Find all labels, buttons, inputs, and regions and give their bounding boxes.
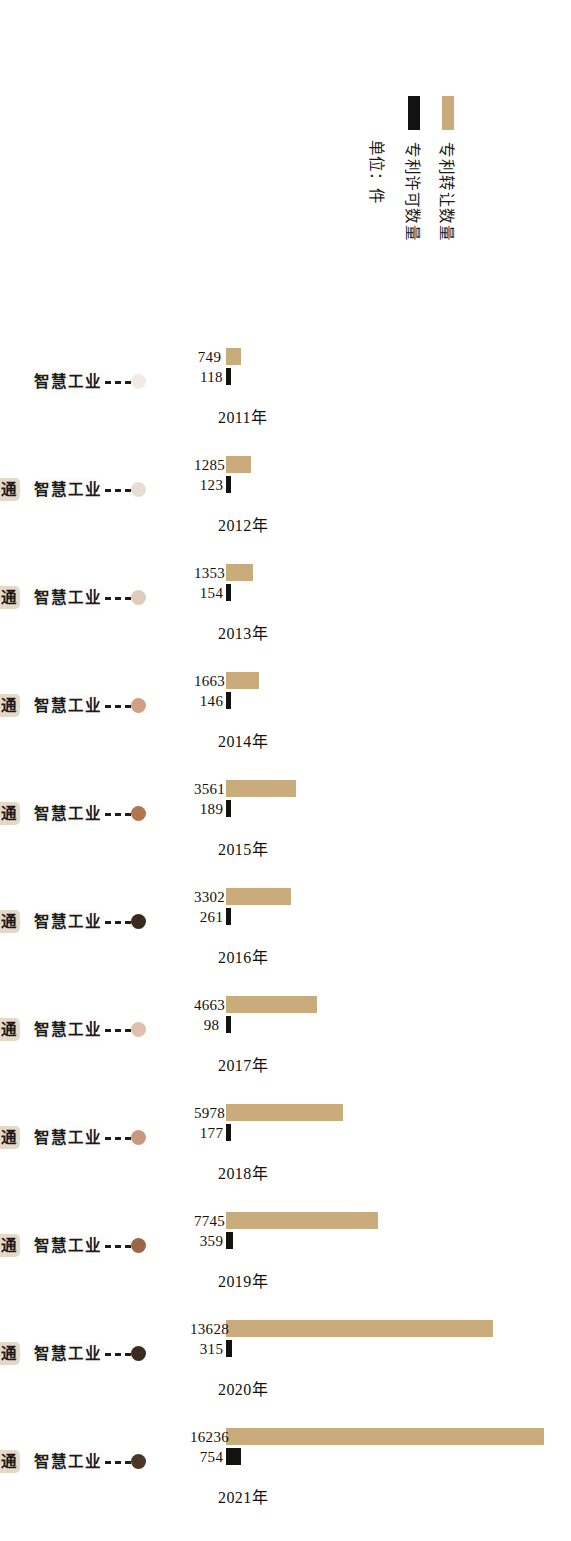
bar-group: 749118 [226, 348, 571, 452]
bar-value-label: 5978 [194, 1104, 225, 1121]
bar-group: 466398 [226, 996, 571, 1100]
category-tag[interactable]: 智慧交通 [0, 1450, 20, 1473]
dashed-connector [105, 921, 131, 924]
bar-license[interactable]: 189 [226, 800, 231, 817]
year-column: 77453592019年智慧工业智慧交通智慧城市智慧医疗智慧金融智慧工业智慧农业 [0, 1194, 571, 1298]
category-tag-label: 智慧工业 [34, 914, 102, 930]
bar-license[interactable]: 98 [226, 1016, 231, 1033]
category-tag[interactable]: 智慧工业 [32, 910, 104, 933]
bar-value-label: 1353 [194, 564, 225, 581]
year-column: 13531542013年智慧工业智慧交通 [0, 546, 571, 650]
category-tag[interactable]: 智慧工业 [32, 1234, 104, 1257]
category-tag[interactable]: 智慧交通 [0, 1234, 20, 1257]
bar-group: 3302261 [226, 888, 571, 992]
category-tag-label: 智慧交通 [0, 698, 18, 714]
bar-transfer[interactable]: 4663 [226, 996, 317, 1013]
category-tag-label: 智慧工业 [34, 590, 102, 606]
category-tag[interactable]: 智慧交通 [0, 1342, 20, 1365]
bar-value-label: 189 [200, 800, 223, 817]
bar-transfer[interactable]: 5978 [226, 1104, 343, 1121]
bar-transfer[interactable]: 1663 [226, 672, 259, 689]
bar-license[interactable]: 359 [226, 1232, 233, 1249]
bar-transfer[interactable]: 3302 [226, 888, 291, 905]
bar-transfer[interactable]: 749 [226, 348, 241, 365]
category-tag-label: 智慧交通 [0, 914, 18, 930]
category-tag[interactable]: 智慧交通 [0, 586, 20, 609]
timeline-dot [131, 806, 146, 821]
legend-item-transfer: 专利转让数量 [437, 96, 459, 306]
bar-group: 16236754 [226, 1428, 571, 1532]
category-tag[interactable]: 智慧交通 [0, 694, 20, 717]
year-column: 7491182011年智慧工业 [0, 330, 571, 434]
category-tag-label: 智慧工业 [34, 698, 102, 714]
bar-transfer[interactable]: 7745 [226, 1212, 378, 1229]
bar-license[interactable]: 315 [226, 1340, 232, 1357]
category-tag-label: 智慧交通 [0, 1454, 18, 1470]
bar-transfer[interactable]: 16236 [226, 1428, 544, 1445]
legend-swatch-transfer [442, 96, 454, 130]
category-tag-label: 智慧工业 [34, 482, 102, 498]
year-column: 35611892015年智慧工业智慧交通智慧城市智慧医疗 [0, 762, 571, 866]
legend-item-license: 专利许可数量 [403, 96, 425, 306]
bar-value-label: 16236 [190, 1428, 229, 1445]
chart-canvas: 专利转让数量 专利许可数量 单位：件 7491182011年智慧工业128512… [0, 0, 571, 1541]
bar-value-label: 315 [200, 1340, 223, 1357]
bar-license[interactable]: 261 [226, 908, 231, 925]
bar-license[interactable]: 754 [226, 1448, 241, 1465]
bar-group: 1353154 [226, 564, 571, 668]
category-tag[interactable]: 智慧交通 [0, 802, 20, 825]
category-tag[interactable]: 智慧工业 [32, 1342, 104, 1365]
category-tag[interactable]: 智慧工业 [32, 1126, 104, 1149]
category-tag[interactable]: 智慧工业 [32, 802, 104, 825]
timeline-dot [131, 482, 146, 497]
bar-transfer[interactable]: 1353 [226, 564, 253, 581]
year-axis-label: 2017年 [218, 1052, 268, 1076]
year-axis-label: 2013年 [218, 620, 268, 644]
bar-value-label: 98 [204, 1016, 220, 1033]
bar-value-label: 754 [200, 1448, 223, 1465]
dashed-connector [105, 1245, 131, 1248]
bar-license[interactable]: 177 [226, 1124, 231, 1141]
legend-swatch-license [408, 96, 420, 130]
year-column: 59781772018年智慧工业智慧交通智慧城市智慧医疗智慧金融智慧工业 [0, 1086, 571, 1190]
bar-value-label: 1663 [194, 672, 225, 689]
category-tag[interactable]: 智慧交通 [0, 1018, 20, 1041]
year-column: 16631462014年智慧工业智慧交通智慧城市 [0, 654, 571, 758]
bar-license[interactable]: 123 [226, 476, 231, 493]
dashed-connector [105, 381, 131, 384]
category-tag[interactable]: 智慧工业 [32, 1018, 104, 1041]
dashed-connector [105, 1137, 131, 1140]
timeline-dot [131, 374, 146, 389]
rotated-figure-wrapper: 专利转让数量 专利许可数量 单位：件 7491182011年智慧工业128512… [0, 0, 571, 1541]
category-tag[interactable]: 智慧工业 [32, 370, 104, 393]
year-column: 136283152020年智慧工业智慧交通智慧城市智慧医疗智慧金融智慧工业智慧农… [0, 1302, 571, 1406]
category-tag[interactable]: 智慧工业 [32, 1450, 104, 1473]
bar-license[interactable]: 118 [226, 368, 231, 385]
legend-label-transfer: 专利转让数量 [437, 142, 459, 241]
bar-value-label: 1285 [194, 456, 225, 473]
category-tag[interactable]: 智慧交通 [0, 910, 20, 933]
year-column: 12851232012年智慧工业智慧交通 [0, 438, 571, 542]
category-tag[interactable]: 智慧交通 [0, 478, 20, 501]
plot-area: 7491182011年智慧工业12851232012年智慧工业智慧交通13531… [0, 330, 571, 1535]
bar-license[interactable]: 154 [226, 584, 231, 601]
bar-license[interactable]: 146 [226, 692, 231, 709]
category-tag[interactable]: 智慧工业 [32, 694, 104, 717]
dashed-connector [105, 489, 131, 492]
category-tag-label: 智慧工业 [34, 1346, 102, 1362]
bar-value-label: 3561 [194, 780, 225, 797]
timeline-dot [131, 914, 146, 929]
category-tag[interactable]: 智慧工业 [32, 478, 104, 501]
bar-group: 7745359 [226, 1212, 571, 1316]
bar-transfer[interactable]: 1285 [226, 456, 251, 473]
dashed-connector [105, 1029, 131, 1032]
category-tag[interactable]: 智慧工业 [32, 586, 104, 609]
category-tag-label: 智慧工业 [34, 1130, 102, 1146]
bar-transfer[interactable]: 13628 [226, 1320, 493, 1337]
category-tag-label: 智慧交通 [0, 1022, 18, 1038]
bar-value-label: 359 [200, 1232, 223, 1249]
bar-transfer[interactable]: 3561 [226, 780, 296, 797]
bar-value-label: 261 [200, 908, 223, 925]
dashed-connector [105, 597, 131, 600]
category-tag[interactable]: 智慧交通 [0, 1126, 20, 1149]
